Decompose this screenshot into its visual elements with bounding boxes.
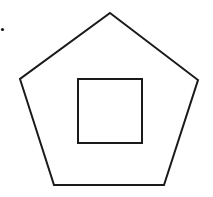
diagram-canvas [0, 0, 213, 197]
inner-square [78, 79, 142, 143]
outer-pentagon [20, 13, 198, 185]
pentagon-square-figure [0, 0, 213, 197]
bullet-dot [1, 28, 4, 31]
